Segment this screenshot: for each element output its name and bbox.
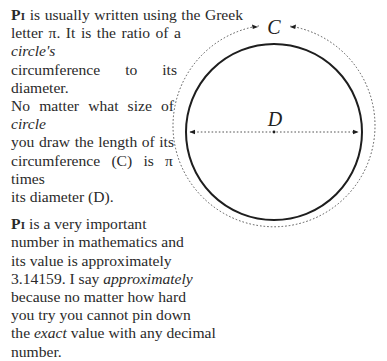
p2-line-8: number.: [11, 343, 201, 361]
arrowhead-left-icon: [252, 25, 258, 30]
emphasis: exact: [34, 324, 67, 341]
emphasis: approximately: [103, 270, 193, 287]
p2-line-5: because no matter how hard: [11, 288, 201, 306]
center-dot: [273, 131, 276, 134]
p2-line-7: the exact value with any decimal: [11, 324, 243, 342]
diameter-label: D: [267, 108, 283, 130]
p2-line-6: you try you cannot pin down: [11, 306, 201, 324]
p2-line-4: 3.14159. I say approximately: [11, 270, 201, 288]
circumference-label: C: [267, 16, 281, 38]
arrowhead-right-icon: [290, 25, 296, 30]
